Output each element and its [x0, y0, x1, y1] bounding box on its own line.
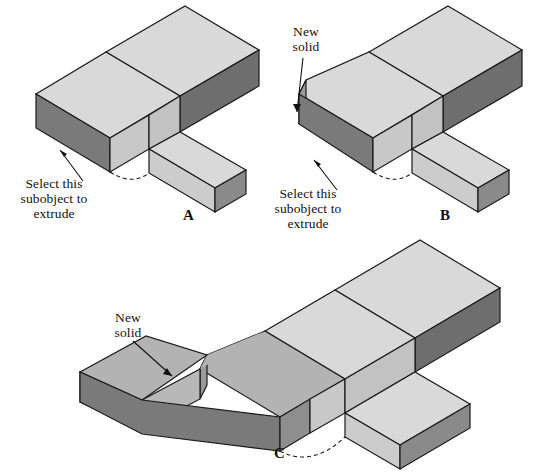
panel-a-select-subobject-label: Select this subobject to extrude [2, 176, 106, 221]
isometric-solids-illustration [0, 0, 535, 473]
panel-c-solid [60, 236, 535, 473]
panel-b-letter: B [440, 207, 450, 224]
panel-b-new-solid-label: New solid [282, 24, 330, 54]
panel-c-letter: C [274, 445, 285, 462]
panel-c-new-solid-label: New solid [104, 310, 152, 340]
panel-b-select-subobject-label: Select this subobject to extrude [256, 186, 360, 231]
figure-container: Select this subobject to extrude A New s… [0, 0, 535, 473]
panel-a-letter: A [183, 207, 194, 224]
